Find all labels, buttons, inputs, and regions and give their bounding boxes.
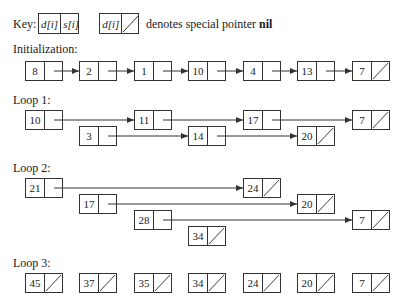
key-description: denotes special pointer nil bbox=[146, 17, 272, 31]
node-value: 7 bbox=[353, 211, 372, 229]
list-node: 11 bbox=[134, 110, 172, 130]
nil-slash-icon bbox=[122, 14, 138, 33]
node-pointer bbox=[99, 195, 116, 213]
list-node: 1 bbox=[134, 61, 172, 81]
node-value: 45 bbox=[26, 274, 45, 292]
nil-slash-icon bbox=[317, 195, 334, 213]
nil-slash-icon bbox=[372, 274, 389, 292]
nil-slash-icon bbox=[372, 211, 389, 229]
node-value: 14 bbox=[189, 127, 208, 145]
nil-slash-icon bbox=[263, 274, 280, 292]
node-value: 20 bbox=[298, 127, 317, 145]
list-node-nil: 7 bbox=[352, 210, 390, 230]
list-node-nil: 20 bbox=[297, 273, 335, 293]
list-node: 3 bbox=[79, 126, 117, 146]
node-value: 24 bbox=[244, 179, 263, 197]
node-pointer bbox=[45, 179, 62, 197]
list-node: 4 bbox=[243, 61, 281, 81]
node-value: 21 bbox=[26, 179, 45, 197]
node-value: 20 bbox=[298, 195, 317, 213]
list-node: 14 bbox=[188, 126, 226, 146]
node-pointer bbox=[154, 211, 171, 229]
nil-slash-icon bbox=[372, 62, 389, 80]
node-value: 34 bbox=[189, 274, 208, 292]
node-value: 17 bbox=[80, 195, 99, 213]
node-pointer bbox=[263, 111, 280, 129]
list-node-nil: 37 bbox=[79, 273, 117, 293]
list-node: 2 bbox=[79, 61, 117, 81]
nil-slash-icon bbox=[99, 274, 116, 292]
nil-slash-icon bbox=[208, 274, 225, 292]
node-value: 8 bbox=[26, 62, 45, 80]
nil-slash-icon bbox=[154, 274, 171, 292]
node-value: 28 bbox=[135, 211, 154, 229]
section-label-loop1: Loop 1: bbox=[13, 93, 51, 107]
list-node: 8 bbox=[25, 61, 63, 81]
node-value: 2 bbox=[80, 62, 99, 80]
list-node-nil: 20 bbox=[297, 194, 335, 214]
node-value: 10 bbox=[26, 111, 45, 129]
list-node-nil: 24 bbox=[243, 273, 281, 293]
node-value: 4 bbox=[244, 62, 263, 80]
key-nil-cell-d: d[i] bbox=[100, 14, 122, 33]
key-nil-example: d[i] bbox=[99, 13, 139, 34]
node-value: 3 bbox=[80, 127, 99, 145]
key-node-example: d[i] s[i] bbox=[38, 13, 79, 34]
node-value: 35 bbox=[135, 274, 154, 292]
list-node: 10 bbox=[25, 110, 63, 130]
section-label-init: Initialization: bbox=[13, 42, 78, 56]
node-pointer bbox=[99, 127, 116, 145]
list-node: 13 bbox=[297, 61, 335, 81]
node-pointer bbox=[99, 62, 116, 80]
node-pointer bbox=[208, 62, 225, 80]
key-cell-s: s[i] bbox=[61, 14, 81, 33]
node-value: 34 bbox=[189, 227, 208, 245]
key-cell-d: d[i] bbox=[39, 14, 61, 33]
list-node-nil: 7 bbox=[352, 110, 390, 130]
nil-slash-icon bbox=[317, 127, 334, 145]
nil-slash-icon bbox=[208, 227, 225, 245]
node-pointer bbox=[154, 62, 171, 80]
node-value: 17 bbox=[244, 111, 263, 129]
node-value: 10 bbox=[189, 62, 208, 80]
node-value: 24 bbox=[244, 274, 263, 292]
node-pointer bbox=[208, 127, 225, 145]
node-pointer bbox=[263, 62, 280, 80]
section-label-loop2: Loop 2: bbox=[13, 161, 51, 175]
node-value: 13 bbox=[298, 62, 317, 80]
nil-slash-icon bbox=[45, 274, 62, 292]
list-node-nil: 45 bbox=[25, 273, 63, 293]
list-node: 17 bbox=[79, 194, 117, 214]
pointer-jumping-diagram: Key: d[i] s[i] d[i] denotes special poin… bbox=[0, 0, 399, 308]
key-label: Key: bbox=[13, 17, 36, 31]
list-node-nil: 34 bbox=[188, 273, 226, 293]
list-node-nil: 7 bbox=[352, 273, 390, 293]
list-node: 21 bbox=[25, 178, 63, 198]
list-node-nil: 20 bbox=[297, 126, 335, 146]
node-value: 1 bbox=[135, 62, 154, 80]
nil-slash-icon bbox=[263, 179, 280, 197]
node-value: 11 bbox=[135, 111, 154, 129]
key-desc-text: denotes special pointer bbox=[146, 17, 256, 31]
list-node: 17 bbox=[243, 110, 281, 130]
list-node-nil: 24 bbox=[243, 178, 281, 198]
nil-slash-icon bbox=[317, 274, 334, 292]
list-node: 28 bbox=[134, 210, 172, 230]
node-value: 37 bbox=[80, 274, 99, 292]
node-value: 7 bbox=[353, 274, 372, 292]
node-value: 7 bbox=[353, 111, 372, 129]
section-label-loop3: Loop 3: bbox=[13, 256, 51, 270]
list-node-nil: 7 bbox=[352, 61, 390, 81]
list-node-nil: 35 bbox=[134, 273, 172, 293]
list-node-nil: 34 bbox=[188, 226, 226, 246]
node-pointer bbox=[317, 62, 334, 80]
node-value: 20 bbox=[298, 274, 317, 292]
nil-keyword: nil bbox=[259, 17, 272, 31]
node-pointer bbox=[154, 111, 171, 129]
list-node: 10 bbox=[188, 61, 226, 81]
node-value: 7 bbox=[353, 62, 372, 80]
nil-slash-icon bbox=[372, 111, 389, 129]
node-pointer bbox=[45, 62, 62, 80]
node-pointer bbox=[45, 111, 62, 129]
